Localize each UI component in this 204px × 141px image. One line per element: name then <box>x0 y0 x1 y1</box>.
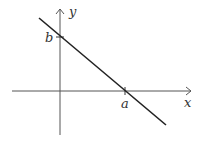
coordinate-diagram: y x b a <box>0 0 204 141</box>
y-axis-label: y <box>68 4 77 19</box>
x-intercept-label: a <box>121 96 129 111</box>
linear-function-line <box>39 18 166 125</box>
x-axis-label: x <box>184 95 192 110</box>
y-intercept-label: b <box>45 30 53 45</box>
